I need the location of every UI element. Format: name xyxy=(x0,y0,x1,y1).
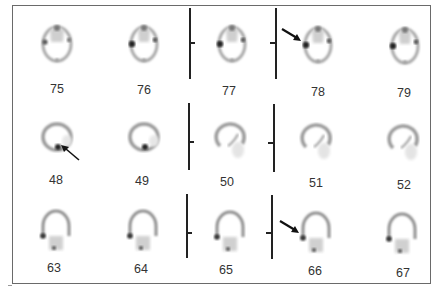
scan-coronal-67 xyxy=(372,201,432,265)
scan-coronal-65 xyxy=(200,199,260,263)
scan-sagittal-52 xyxy=(373,110,433,170)
row1-tick-right xyxy=(270,42,276,44)
slice-label: 48 xyxy=(36,173,76,187)
row1-divider-left xyxy=(189,8,191,79)
row2-tick-right xyxy=(268,142,274,144)
scan-transaxial-77 xyxy=(202,10,262,74)
scan-sagittal-51 xyxy=(286,109,346,169)
scan-sagittal-50 xyxy=(200,108,260,168)
scan-coronal-63 xyxy=(26,198,86,262)
slice-label: 49 xyxy=(122,174,162,188)
arrow-icon-slice-78 xyxy=(280,26,304,46)
slice-label: 50 xyxy=(207,175,247,189)
row3-tick-left xyxy=(186,232,192,234)
slice-label: 51 xyxy=(296,176,336,190)
slice-label: 75 xyxy=(37,82,77,96)
row3-tick-right xyxy=(266,232,272,234)
scan-transaxial-76 xyxy=(114,10,174,74)
slice-label: 78 xyxy=(298,85,338,99)
row2-divider-left xyxy=(188,103,190,170)
row3-divider-right xyxy=(271,195,273,259)
arrow-icon-slice-48 xyxy=(58,143,82,163)
slice-label: 67 xyxy=(383,266,423,280)
scan-transaxial-75 xyxy=(27,10,87,74)
scan-coronal-64 xyxy=(113,198,173,262)
slice-label: 64 xyxy=(121,262,161,276)
row1-tick-left xyxy=(189,42,195,44)
slice-label: 65 xyxy=(206,263,246,277)
row1-divider-right xyxy=(275,8,277,79)
slice-label: 66 xyxy=(295,264,335,278)
row2-divider-right xyxy=(273,104,275,172)
arrow-icon-slice-66 xyxy=(278,218,302,238)
row2-tick-left xyxy=(188,141,194,143)
row3-divider-left xyxy=(186,194,188,258)
slice-label: 52 xyxy=(384,178,424,192)
slice-label: 79 xyxy=(384,86,424,100)
slice-label: 77 xyxy=(209,84,249,98)
corner-mark xyxy=(8,285,12,286)
scan-transaxial-79 xyxy=(375,12,435,76)
slice-label: 76 xyxy=(124,83,164,97)
slice-label: 63 xyxy=(34,261,74,275)
scan-sagittal-49 xyxy=(114,107,174,167)
